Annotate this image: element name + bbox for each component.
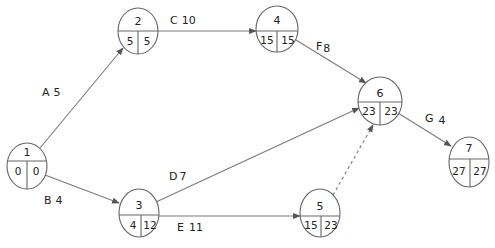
- edge-f: [296, 40, 366, 83]
- node-latest-time: 15: [281, 34, 294, 46]
- node-latest-time: 5: [144, 35, 151, 47]
- project-network-diagram: A5 B4 C10 D7 E11 F8 G4 1 0 0 2 5 5 3 4 1…: [0, 0, 495, 248]
- edge-label-e: E11: [177, 221, 203, 234]
- edge-label-f: F8: [316, 40, 330, 55]
- node-number: 7: [466, 142, 473, 155]
- node-earliest-time: 23: [362, 105, 375, 117]
- node-number: 5: [317, 200, 324, 213]
- node-earliest-time: 15: [260, 34, 273, 46]
- node-earliest-time: 0: [15, 165, 22, 177]
- node-1: 1 0 0: [7, 143, 47, 189]
- node-number: 1: [24, 146, 31, 159]
- node-5: 5 15 23: [300, 189, 340, 237]
- edge-label-d: D7: [169, 170, 186, 183]
- node-3: 3 4 12: [119, 189, 159, 237]
- node-number: 4: [274, 14, 281, 27]
- node-number: 3: [136, 199, 143, 212]
- node-latest-time: 12: [143, 219, 156, 231]
- node-earliest-time: 5: [127, 35, 134, 47]
- node-latest-time: 27: [473, 165, 486, 177]
- edge-dummy: [333, 125, 373, 195]
- node-earliest-time: 4: [130, 219, 137, 231]
- node-number: 6: [377, 87, 384, 100]
- node-4: 4 15 15: [256, 6, 298, 52]
- edge-a: [40, 48, 123, 148]
- edge-label-a: A5: [42, 86, 61, 99]
- edge-d: [156, 108, 359, 202]
- node-2: 2 5 5: [118, 8, 158, 54]
- edge-label-c: C10: [170, 14, 196, 27]
- node-latest-time: 0: [33, 165, 40, 177]
- node-latest-time: 23: [384, 105, 397, 117]
- node-latest-time: 23: [324, 219, 337, 231]
- edge-label-g: G4: [425, 112, 446, 127]
- edges: [40, 31, 451, 216]
- node-earliest-time: 27: [452, 165, 465, 177]
- node-6: 6 23 23: [358, 77, 402, 125]
- node-earliest-time: 15: [304, 219, 317, 231]
- edge-label-b: B4: [44, 194, 63, 207]
- node-7: 7 27 27: [449, 137, 489, 187]
- node-number: 2: [135, 15, 142, 28]
